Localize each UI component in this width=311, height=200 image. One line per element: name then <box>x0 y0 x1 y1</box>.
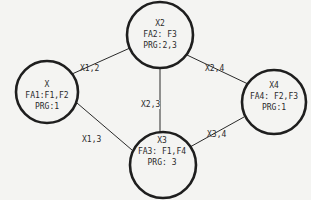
node-x1-prg: PRG:1 <box>15 101 79 112</box>
edge-label-x2-x4: X2,4 <box>205 64 224 73</box>
node-x1-fa: FA1:F1,F2 <box>15 90 79 101</box>
node-x1-title: X <box>15 79 79 90</box>
node-x3-title: X3 <box>130 135 194 146</box>
node-x4-title: X4 <box>242 80 306 91</box>
node-x3: X3 FA3: F1,F4 PRG: 3 <box>130 135 194 168</box>
node-x4-prg: PRG:1 <box>242 102 306 113</box>
node-x3-prg: PRG: 3 <box>130 157 194 168</box>
node-x2: X2 FA2: F3 PRG:2,3 <box>128 18 192 51</box>
edge-label-x1-x2: X1,2 <box>80 64 99 73</box>
node-x2-prg: PRG:2,3 <box>128 40 192 51</box>
node-x4-fa: FA4: F2,F3 <box>242 91 306 102</box>
edge-label-x1-x3: X1,3 <box>82 135 101 144</box>
node-x2-fa: FA2: F3 <box>128 29 192 40</box>
edge-label-x2-x3: X2,3 <box>141 100 160 109</box>
node-x4: X4 FA4: F2,F3 PRG:1 <box>242 80 306 113</box>
node-x3-fa: FA3: F1,F4 <box>130 146 194 157</box>
node-x2-title: X2 <box>128 18 192 29</box>
node-x1: X FA1:F1,F2 PRG:1 <box>15 79 79 112</box>
edge-label-x3-x4: X3,4 <box>207 130 226 139</box>
